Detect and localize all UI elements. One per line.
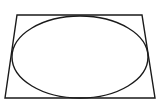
diagram-canvas [0,0,161,107]
inscribed-ellipse [12,16,148,98]
trapezoid-shape [5,15,155,98]
